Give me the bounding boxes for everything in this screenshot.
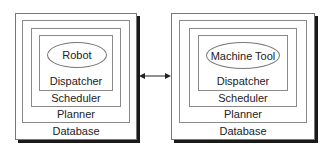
left-scheduler-label: Scheduler: [32, 92, 120, 104]
left-database-label: Database: [16, 125, 136, 137]
bidirectional-arrow-icon: [138, 71, 172, 81]
right-dispatcher-label: Dispatcher: [199, 75, 287, 87]
right-planner-label: Planner: [180, 108, 306, 120]
robot-label: Robot: [62, 49, 91, 61]
left-planner-label: Planner: [23, 108, 129, 120]
right-scheduler-label: Scheduler: [190, 92, 296, 104]
left-robot-ellipse: Robot: [47, 42, 107, 68]
machine-tool-label: Machine Tool: [211, 50, 276, 62]
right-database-label: Database: [172, 125, 314, 137]
right-machine-tool-ellipse: Machine Tool: [206, 42, 280, 69]
left-dispatcher-label: Dispatcher: [40, 75, 112, 87]
